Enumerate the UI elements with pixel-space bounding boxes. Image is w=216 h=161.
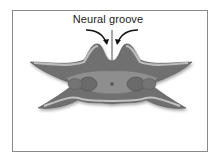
embryo-cross-section-illustration: [0, 0, 216, 161]
left-arrow-icon: [86, 30, 109, 45]
left-somite: [68, 77, 97, 91]
right-arrow-icon: [115, 30, 138, 45]
notochord: [110, 82, 114, 86]
right-somite: [127, 77, 156, 91]
